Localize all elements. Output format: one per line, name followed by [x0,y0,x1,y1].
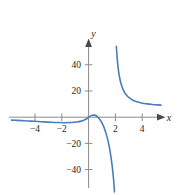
x-tick-label-4: 4 [140,124,145,134]
x-axis-arrowhead [157,114,166,121]
y-axis-arrowhead [85,39,92,48]
y-tick-label-40: 40 [72,60,82,70]
axes-group [9,39,166,189]
curve-branch-right [116,46,161,105]
y-tick-label--40: −40 [66,165,81,175]
function-graph-figure: −4 −2 2 4 40 20 −20 −40 x y [0,0,179,195]
plot-canvas: −4 −2 2 4 40 20 −20 −40 x y [0,0,179,195]
y-tick-label--20: −20 [66,139,81,149]
x-tick-label--4: −4 [30,124,40,134]
x-tick-label-2: 2 [113,124,118,134]
x-axis-label: x [166,112,172,123]
y-tick-label-20: 20 [72,86,82,96]
x-tick-label--2: −2 [57,124,67,134]
y-axis-label: y [90,28,96,39]
